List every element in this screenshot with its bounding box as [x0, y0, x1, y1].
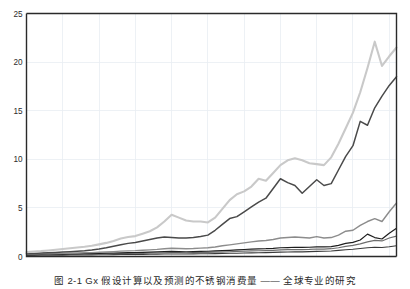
chart-plot-area: 0510152025 19601965197019751980198519901…	[0, 0, 410, 262]
x-tick-label: 1995	[271, 261, 290, 263]
x-tick-label: 1985	[199, 261, 218, 263]
series-line-series-1-light-gray	[27, 42, 397, 252]
x-tick-label: 2010	[380, 261, 399, 263]
x-tick-label: 2000	[308, 261, 327, 263]
figure-caption: 图 2-1 Gx 假设计算以及预测的不锈钢消费量 —— 全球专业的研究	[0, 274, 410, 287]
x-axis-tick-labels: 1960196519701975198019851990199520002005…	[17, 261, 398, 263]
y-axis-tick-labels: 0510152025	[13, 10, 23, 262]
y-tick-label: 20	[13, 58, 23, 67]
x-tick-label: 1965	[54, 261, 73, 263]
x-tick-label: 1990	[235, 261, 254, 263]
x-tick-label: 1975	[126, 261, 145, 263]
y-tick-label: 5	[18, 204, 23, 213]
series-line-series-2-dark	[27, 77, 397, 254]
y-tick-label: 15	[13, 107, 23, 116]
line-chart-svg: 0510152025 19601965197019751980198519901…	[0, 0, 410, 262]
x-tick-label: 1970	[90, 261, 109, 263]
series-line-series-5-gray	[27, 236, 397, 255]
x-tick-label: 1960	[17, 261, 36, 263]
figure-container: 0510152025 19601965197019751980198519901…	[0, 0, 410, 289]
series-group	[27, 42, 397, 256]
y-tick-label: 25	[13, 10, 23, 19]
x-tick-label: 1980	[162, 261, 181, 263]
y-tick-label: 10	[13, 155, 23, 164]
x-tick-label: 2005	[344, 261, 363, 263]
